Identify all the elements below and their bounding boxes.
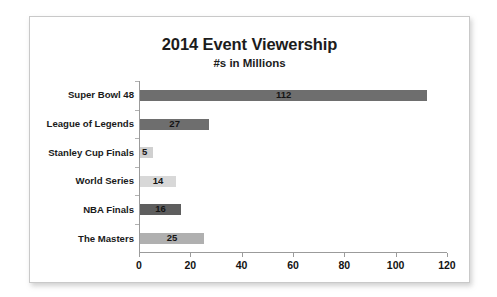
x-tick-label: 120 — [438, 259, 456, 271]
category-label: League of Legends — [30, 118, 134, 130]
chart-subtitle: #s in Millions — [30, 57, 469, 69]
category-label: NBA Finals — [30, 204, 134, 216]
bar-value-label: 25 — [167, 232, 178, 244]
bar-band: 27 — [140, 110, 448, 139]
category-label: World Series — [30, 175, 134, 187]
bar-value-label: 5 — [142, 146, 147, 158]
plot-area: 112 27 5 14 16 25 — [139, 81, 447, 253]
bar-band: 16 — [140, 195, 448, 224]
bar-band: 112 — [140, 81, 448, 110]
category-label: Super Bowl 48 — [30, 89, 134, 101]
y-axis-category-labels: Super Bowl 48 League of Legends Stanley … — [30, 81, 134, 253]
x-tick-label: 60 — [287, 259, 299, 271]
chart-card: 2014 Event Viewership #s in Millions Sup… — [29, 16, 470, 283]
bar-value-label: 27 — [169, 118, 180, 130]
category-label: The Masters — [30, 233, 134, 245]
bar-band: 5 — [140, 138, 448, 167]
bar-value-label: 14 — [153, 175, 164, 187]
category-label: Stanley Cup Finals — [30, 147, 134, 159]
x-tick-label: 20 — [184, 259, 196, 271]
bar-value-label: 16 — [155, 203, 166, 215]
bar-band: 14 — [140, 167, 448, 196]
bar-value-label: 112 — [276, 89, 291, 101]
x-tick-label: 80 — [338, 259, 350, 271]
x-tick-label: 0 — [136, 259, 142, 271]
bar-band: 25 — [140, 224, 448, 253]
x-tick-label: 40 — [236, 259, 248, 271]
chart-title: 2014 Event Viewership — [30, 35, 469, 54]
x-tick-label: 100 — [387, 259, 405, 271]
